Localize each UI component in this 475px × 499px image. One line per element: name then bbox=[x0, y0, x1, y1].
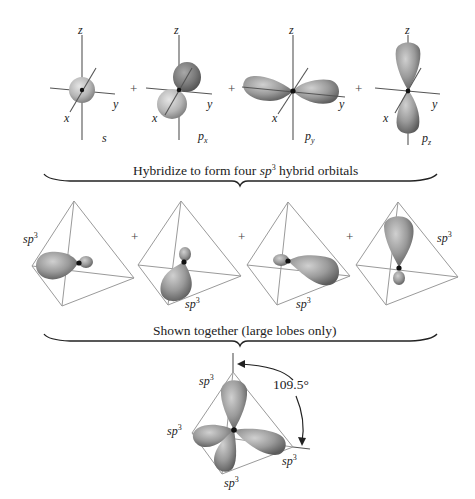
sp3-label-left: sp3 bbox=[167, 423, 182, 438]
nucleus bbox=[290, 88, 295, 93]
nucleus bbox=[396, 265, 401, 270]
z-label: z bbox=[404, 23, 410, 37]
sp3-label-bottom: sp3 bbox=[224, 475, 239, 490]
py-lobe-right bbox=[293, 79, 339, 103]
tetrahedron bbox=[356, 202, 458, 305]
s-label: s bbox=[102, 131, 107, 145]
large-lobe bbox=[36, 252, 78, 280]
x-label: x bbox=[63, 111, 70, 125]
pz-lobe-top bbox=[396, 43, 421, 91]
nucleus bbox=[285, 258, 290, 263]
py-label: py bbox=[304, 129, 315, 145]
py-lobe-left bbox=[243, 76, 293, 101]
pz-lobe-bottom bbox=[397, 90, 420, 134]
sp3-hybrid-4: sp3 bbox=[356, 202, 458, 305]
nucleus bbox=[231, 427, 237, 433]
x-label: x bbox=[271, 111, 278, 125]
y-label: y bbox=[431, 97, 438, 111]
arrowhead-bottom-icon bbox=[298, 437, 306, 446]
sp3-hybrid-3: sp3 bbox=[247, 202, 350, 311]
sp3-hybridization-diagram: z y x s + z y x px + z y x py + bbox=[0, 0, 475, 499]
sp3-label: sp3 bbox=[296, 296, 311, 311]
sp3-label-top: sp3 bbox=[199, 373, 214, 388]
sp3-label: sp3 bbox=[437, 230, 452, 245]
nucleus bbox=[406, 89, 411, 94]
nucleus bbox=[177, 88, 182, 93]
sp3-label: sp3 bbox=[185, 296, 200, 311]
x-label: x bbox=[382, 111, 389, 125]
nucleus bbox=[181, 259, 186, 264]
tetrahedron bbox=[247, 202, 350, 305]
y-label: y bbox=[338, 97, 345, 111]
plus-sign: + bbox=[238, 229, 245, 244]
nucleus bbox=[80, 88, 84, 92]
plus-sign: + bbox=[228, 81, 235, 96]
shown-together-caption: Shown together (large lobes only) bbox=[153, 323, 336, 338]
small-lobe bbox=[393, 271, 405, 285]
small-lobe bbox=[179, 247, 191, 261]
px-orbital-group: z y x px bbox=[146, 23, 213, 145]
sp3-label: sp3 bbox=[23, 231, 38, 246]
pz-orbital-group: z y x pz bbox=[375, 23, 440, 147]
arrowhead-top-icon bbox=[237, 360, 245, 368]
px-lobe-front bbox=[157, 89, 187, 119]
sp3-combined: 109.5° sp3 sp3 sp3 sp3 bbox=[167, 353, 310, 490]
lobe-right bbox=[234, 429, 286, 455]
x-label: x bbox=[151, 111, 158, 125]
bond-angle-label: 109.5° bbox=[273, 377, 309, 392]
y-label: y bbox=[206, 97, 213, 111]
s-orbital-group: z y x s bbox=[50, 23, 119, 145]
z-label: z bbox=[288, 23, 294, 37]
z-label: z bbox=[173, 23, 179, 37]
lobe-top bbox=[221, 380, 247, 430]
py-orbital-group: z y x py bbox=[242, 23, 345, 145]
large-lobe bbox=[384, 216, 414, 267]
z-label: z bbox=[77, 23, 83, 37]
hybridize-caption: Hybridize to form four sp3 hybrid orbita… bbox=[133, 163, 358, 178]
sp3-hybrid-1: sp3 bbox=[23, 201, 134, 306]
angle-arc-bottom bbox=[296, 396, 303, 442]
nucleus bbox=[76, 260, 81, 265]
sp3-label-right: sp3 bbox=[282, 453, 297, 468]
px-label: px bbox=[197, 129, 208, 145]
y-label: y bbox=[112, 97, 119, 111]
plus-sign: + bbox=[346, 229, 353, 244]
pz-label: pz bbox=[421, 131, 432, 147]
plus-sign: + bbox=[355, 81, 362, 96]
plus-sign: + bbox=[130, 81, 137, 96]
sp3-hybrid-2: sp3 bbox=[138, 201, 241, 311]
reference-line-right bbox=[293, 447, 310, 449]
plus-sign: + bbox=[131, 229, 138, 244]
